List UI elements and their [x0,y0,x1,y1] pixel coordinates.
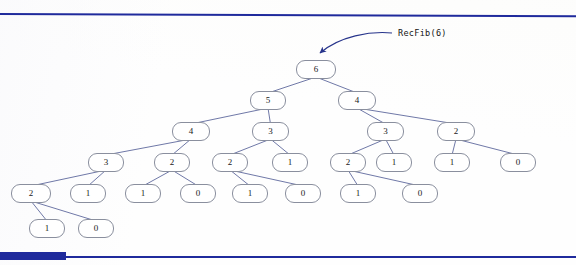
tree-node: 1 [376,153,412,172]
tree-node: 1 [434,153,470,172]
tree-node: 2 [212,153,248,172]
tree-node: 1 [232,184,268,203]
tree-node: 4 [338,91,376,110]
tree-node: 0 [285,184,321,203]
tree-node: 0 [402,184,438,203]
tree-node: 1 [70,184,106,203]
tree-node: 3 [252,122,289,141]
tree-node: 0 [78,219,114,238]
tree-node: 1 [340,184,376,203]
tree-node: 1 [272,153,308,172]
tree-node: 0 [180,184,216,203]
tree-node: 1 [125,184,161,203]
curved-arrow-to-root [320,33,392,53]
tree-node: 5 [250,91,286,110]
tree-edge [31,201,96,221]
tree-node: 6 [296,60,336,79]
slide-canvas: RecFib(6) 6544332322121102110101010 [0,0,576,265]
tree-node: 4 [172,122,210,141]
tree-node: 1 [29,219,65,238]
tree-node: 3 [367,122,404,141]
tree-node: 2 [154,153,190,172]
tree-node: 0 [500,153,536,172]
tree-node: 2 [11,184,51,203]
tree-node: 2 [437,122,475,141]
recfib-callout-label: RecFib(6) [398,28,447,38]
tree-node: 3 [88,153,124,172]
tree-node: 2 [330,153,366,172]
tree-edge [31,201,47,221]
